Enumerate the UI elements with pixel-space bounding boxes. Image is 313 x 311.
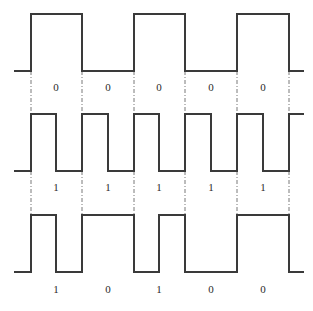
encoding-diagram (0, 0, 313, 311)
waveform-1 (14, 14, 304, 71)
bit-label: 0 (156, 82, 162, 93)
waveform-2 (14, 114, 304, 171)
waveform-3 (14, 215, 304, 272)
bit-label: 1 (105, 182, 111, 193)
bit-label: 1 (260, 182, 266, 193)
bit-label: 1 (53, 182, 59, 193)
bit-label: 0 (105, 82, 111, 93)
bit-label: 0 (260, 82, 266, 93)
bit-label: 0 (260, 284, 266, 295)
bit-label: 0 (105, 284, 111, 295)
bit-label: 1 (156, 182, 162, 193)
bit-label: 1 (208, 182, 214, 193)
bit-label: 0 (208, 284, 214, 295)
bit-label: 0 (53, 82, 59, 93)
bit-label: 0 (208, 82, 214, 93)
bit-label: 1 (156, 284, 162, 295)
bit-label: 1 (53, 284, 59, 295)
